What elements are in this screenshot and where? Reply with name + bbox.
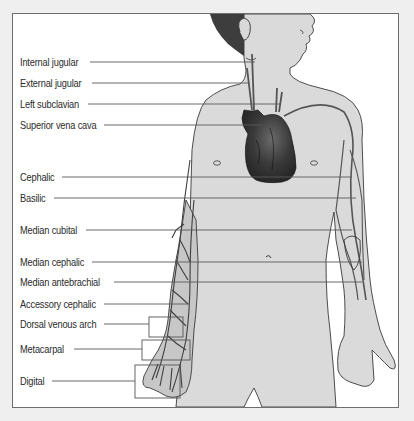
label-median-cephalic: Median cephalic [20,256,87,268]
label-left-subclavian: Left subclavian [20,98,82,110]
label-digital: Digital [20,375,47,387]
label-accessory-cephalic: Accessory cephalic [20,298,99,310]
label-metacarpal: Metacarpal [20,343,67,355]
label-internal-jugular: Internal jugular [20,56,81,68]
label-external-jugular: External jugular [20,77,84,89]
label-superior-vena-cava: Superior vena cava [20,119,99,131]
label-median-cubital: Median cubital [20,224,80,236]
label-cephalic: Cephalic [20,171,57,183]
label-median-antebrachial: Median antebrachial [20,276,103,288]
label-basilic: Basilic [20,192,48,204]
label-dorsal-venous-arch: Dorsal venous arch [20,318,99,330]
